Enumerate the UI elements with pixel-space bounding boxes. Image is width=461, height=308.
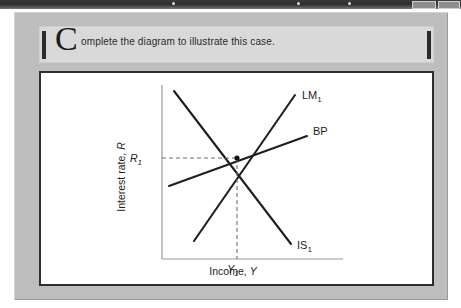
strip-dot-c: [348, 2, 351, 5]
label-bp-text: BP: [313, 125, 328, 137]
x-axis-title-var: Y: [250, 265, 258, 277]
equilibrium-point: [234, 155, 239, 160]
label-is1: IS1: [297, 239, 312, 254]
label-bp: BP: [313, 125, 328, 137]
y-axis-title-text: Interest rate,: [115, 153, 127, 212]
window-top-strip: [0, 0, 461, 9]
strip-chip-b[interactable]: [438, 1, 460, 9]
is-lm-bp-diagram: LM1 BP IS1 R1 Y1 Interest rate,R: [41, 73, 432, 284]
label-is1-subscript: 1: [307, 245, 312, 254]
strip-chip-a[interactable]: [412, 1, 436, 9]
label-is1-text: IS: [297, 239, 307, 251]
instruction-bar: C omplete the diagram to illustrate this…: [39, 26, 434, 63]
x-axis-title-group: Income,Y: [41, 259, 432, 284]
instruction-dropcap: C: [55, 22, 78, 56]
figure-panel: LM1 BP IS1 R1 Y1 Interest rate,R: [39, 71, 434, 286]
instruction-bar-left-rule: [42, 31, 46, 59]
instruction-text: omplete the diagram to illustrate this c…: [81, 36, 275, 47]
x-axis-title-text: Income,: [209, 265, 246, 277]
label-lm1-subscript: 1: [317, 95, 322, 104]
curve-lm1: [194, 95, 295, 241]
y-axis-title-var: R: [115, 142, 127, 150]
label-lm1-text: LM: [302, 89, 317, 101]
strip-dot-a: [172, 2, 175, 5]
x-axis-title: Income,Y: [209, 265, 257, 277]
page-panel: C omplete the diagram to illustrate this…: [14, 12, 448, 300]
y-tick-label-r1: R1: [130, 152, 142, 167]
strip-dot-b: [297, 2, 300, 5]
y-tick-label-r1-subscript: 1: [138, 158, 142, 167]
label-lm1: LM1: [302, 89, 322, 104]
instruction-bar-right-rule: [427, 31, 431, 59]
y-axis-title: Interest rate,R: [115, 142, 127, 212]
curve-is1: [174, 91, 291, 244]
